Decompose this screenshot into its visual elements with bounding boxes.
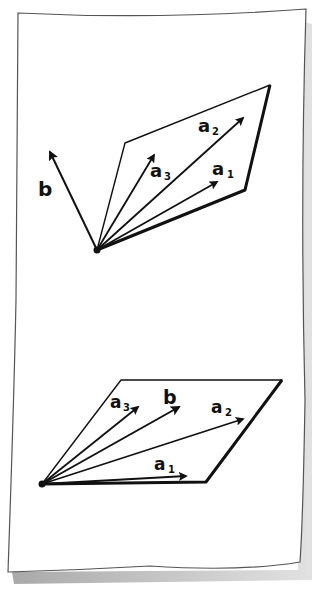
label-a1-bottom: a bbox=[154, 454, 165, 474]
label-b-bottom: b bbox=[163, 386, 177, 408]
label-a3-top: a bbox=[150, 160, 162, 181]
label-a1-sub-bottom: 1 bbox=[168, 464, 175, 475]
label-a1-sub-top: 1 bbox=[227, 169, 234, 180]
label-a2-sub-bottom: 2 bbox=[225, 407, 232, 418]
label-a3-sub-top: 3 bbox=[164, 171, 171, 182]
label-a2-bottom: a bbox=[211, 397, 222, 417]
origin-point-top bbox=[94, 247, 101, 254]
diagram-canvas: b a 3 a 2 a 1 a 3 b a 2 a 1 bbox=[0, 0, 316, 592]
label-a2-top: a bbox=[198, 115, 210, 136]
label-b-top: b bbox=[38, 177, 52, 201]
origin-point-bottom bbox=[39, 481, 46, 488]
label-a2-sub-top: 2 bbox=[212, 126, 219, 137]
paper-sheet bbox=[8, 9, 306, 572]
label-a3-sub-bottom: 3 bbox=[123, 402, 130, 413]
label-a3-bottom: a bbox=[110, 392, 121, 412]
label-a1-top: a bbox=[212, 158, 224, 179]
